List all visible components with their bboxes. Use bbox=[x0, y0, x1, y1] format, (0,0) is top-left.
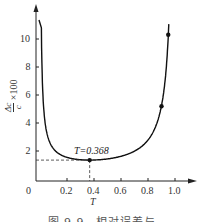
x-tick-label: 0.6 bbox=[114, 186, 127, 196]
x-tick-label: 0.4 bbox=[87, 186, 100, 196]
x-axis-arrow-icon bbox=[188, 179, 197, 184]
y-label-denominator: c bbox=[14, 103, 23, 112]
y-tick-label: 2 bbox=[26, 146, 31, 156]
min-guide-lines bbox=[36, 160, 90, 181]
error-curve bbox=[39, 20, 169, 160]
y-axis-arrow-icon bbox=[34, 4, 39, 12]
x-tick-label: 1.0 bbox=[168, 186, 181, 196]
data-point bbox=[159, 104, 163, 108]
data-point bbox=[87, 158, 91, 162]
y-tick-label: 4 bbox=[26, 118, 31, 128]
y-axis-label: Δc c ×100 bbox=[4, 80, 23, 112]
axes bbox=[34, 4, 198, 184]
y-tick-label: 6 bbox=[26, 90, 31, 100]
x-tick-label: 0.2 bbox=[60, 186, 73, 196]
y-tick-label: 10 bbox=[20, 34, 30, 44]
marked-points bbox=[87, 33, 170, 163]
data-point bbox=[166, 33, 170, 37]
min-annotation: T=0.368 bbox=[74, 145, 109, 156]
y-tick-label: 8 bbox=[26, 62, 31, 72]
y-label-suffix: ×100 bbox=[8, 80, 19, 101]
origin-label: 0 bbox=[26, 186, 31, 196]
x-tick-label: 0.8 bbox=[141, 186, 154, 196]
figure-caption: 图 9.9 相对误差与 bbox=[0, 213, 204, 222]
x-axis-label: T bbox=[90, 196, 96, 207]
